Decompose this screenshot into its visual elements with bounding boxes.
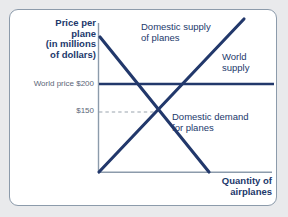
- world-supply-label: World supply: [222, 52, 274, 73]
- y-axis-label: Price per plane (in millions of dollars): [18, 18, 96, 61]
- domestic-demand-label: Domestic demand for planes: [172, 112, 272, 133]
- world-price-tick-label: World price $200: [10, 79, 94, 88]
- figure-container: Price per plane (in millions of dollars)…: [0, 0, 288, 217]
- domestic-supply-label: Domestic supply of planes: [141, 22, 237, 43]
- x-axis-label: Quantity of airplanes: [178, 176, 272, 197]
- equilibrium-price-tick-label: $150: [28, 106, 94, 115]
